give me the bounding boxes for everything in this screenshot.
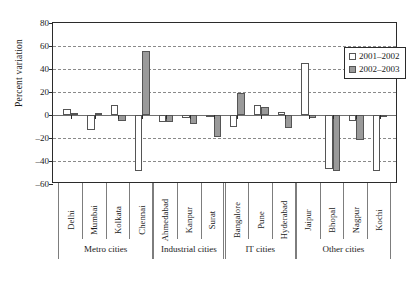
category-cell-kolkata: Kolkata — [106, 183, 130, 239]
category-cell-delhi: Delhi — [58, 183, 82, 239]
bar-pune-2001-2002 — [254, 105, 261, 115]
bar-ahmedabad-2001-2002 — [159, 115, 166, 122]
bar-kolkata-2001-2002 — [111, 105, 118, 115]
x-axis-tick-mark — [285, 115, 286, 119]
group-label-other-cities: Other cities — [296, 239, 391, 259]
group-label-metro-cities: Metro cities — [58, 239, 153, 259]
bar-kolkata-2002-2003 — [118, 115, 125, 121]
category-label: Bangalore — [232, 202, 242, 238]
bar-mumbai-2001-2002 — [87, 115, 94, 130]
bar-mumbai-2002-2003 — [95, 113, 102, 115]
category-cell-bangalore: Bangalore — [225, 183, 249, 239]
bar-chennai-2002-2003 — [142, 51, 149, 115]
category-label: Hyderabad — [279, 201, 289, 240]
category-label: Nagpur — [351, 207, 361, 233]
bar-bangalore-2001-2002 — [230, 115, 237, 127]
category-label: Mumbai — [89, 205, 99, 235]
x-axis-tick-mark — [118, 115, 119, 119]
x-axis-tick-mark — [237, 115, 238, 119]
category-cell-nagpur: Nagpur — [343, 183, 367, 239]
category-label: Kanpur — [184, 207, 194, 233]
legend-swatch-icon-2001-2002 — [349, 53, 356, 60]
category-label: Ahmedabad — [161, 199, 171, 241]
x-axis-tick-mark — [190, 115, 191, 119]
category-cell-jaipur: Jaipur — [296, 183, 320, 239]
bar-surat-2001-2002 — [206, 115, 213, 117]
gridline — [53, 92, 396, 93]
category-label: Bhopal — [327, 207, 337, 232]
gridline — [53, 161, 396, 162]
bar-delhi-2002-2003 — [71, 113, 78, 115]
x-axis-tick-mark — [166, 115, 167, 119]
plot-area: 806040200–20–40–60 2001–2002 2002–2003 — [52, 22, 397, 183]
category-label: Delhi — [65, 210, 75, 230]
category-cell-bhopal: Bhopal — [320, 183, 344, 239]
bar-chennai-2001-2002 — [135, 115, 142, 171]
bar-kochi-2002-2003 — [380, 115, 387, 117]
bar-jaipur-2001-2002 — [301, 63, 308, 115]
y-axis-tick-mark — [49, 23, 53, 24]
y-axis-tick-mark — [49, 161, 53, 162]
category-cell-kochi: Kochi — [367, 183, 391, 239]
x-axis-tick-mark — [356, 115, 357, 119]
bar-pune-2002-2003 — [261, 107, 268, 115]
group-label-industrial-cities: Industrial cities — [153, 239, 224, 259]
category-label: Surat — [208, 211, 218, 230]
category-label: Kochi — [374, 209, 384, 231]
bar-kochi-2001-2002 — [373, 115, 380, 171]
zero-line — [53, 115, 396, 116]
bar-surat-2002-2003 — [214, 115, 221, 137]
bar-jaipur-2002-2003 — [309, 115, 316, 118]
legend-swatch-icon-2002-2003 — [349, 66, 356, 73]
x-axis-tick-mark — [309, 115, 310, 119]
y-axis-tick-mark — [49, 92, 53, 93]
category-cell-ahmedabad: Ahmedabad — [153, 183, 177, 239]
category-cell-kanpur: Kanpur — [177, 183, 201, 239]
bar-kanpur-2001-2002 — [182, 115, 189, 118]
bar-kanpur-2002-2003 — [190, 115, 197, 124]
group-label-it-cities: IT cities — [225, 239, 296, 259]
x-axis-tick-mark — [333, 115, 334, 119]
x-axis-tick-mark — [214, 115, 215, 119]
legend-entry-1: 2002–2003 — [349, 64, 400, 75]
bar-nagpur-2002-2003 — [356, 115, 363, 140]
x-axis-tick-mark — [380, 115, 381, 119]
bar-delhi-2001-2002 — [63, 109, 70, 115]
x-axis-tick-mark — [95, 115, 96, 119]
bar-hyderabad-2002-2003 — [285, 115, 292, 128]
y-axis-tick-mark — [49, 69, 53, 70]
category-cell-surat: Surat — [201, 183, 225, 239]
x-axis-tick-mark — [142, 115, 143, 119]
category-label-table: DelhiMumbaiKolkataChennaiMetro citiesAhm… — [52, 183, 397, 271]
category-cell-hyderabad: Hyderabad — [272, 183, 296, 239]
category-cell-mumbai: Mumbai — [82, 183, 106, 239]
bar-bangalore-2002-2003 — [237, 93, 244, 115]
y-axis-tick-mark — [49, 115, 53, 116]
category-cell-chennai: Chennai — [129, 183, 153, 239]
bar-hyderabad-2001-2002 — [278, 112, 285, 115]
y-axis-tick-mark — [49, 138, 53, 139]
category-label: Pune — [256, 211, 266, 229]
legend-label-2001-2002: 2001–2002 — [359, 51, 400, 62]
category-cell-pune: Pune — [248, 183, 272, 239]
x-axis-tick-mark — [261, 115, 262, 119]
legend: 2001–2002 2002–2003 — [344, 47, 406, 79]
gridline — [53, 138, 396, 139]
category-label: Kolkata — [113, 206, 123, 234]
y-axis-title: Percent variation — [14, 18, 24, 128]
bar-bhopal-2002-2003 — [333, 115, 340, 171]
chart-figure: Percent variation 806040200–20–40–60 200… — [0, 0, 417, 300]
category-label: Jaipur — [303, 209, 313, 231]
y-axis-tick-mark — [49, 46, 53, 47]
category-label: Chennai — [136, 205, 146, 234]
bar-ahmedabad-2002-2003 — [166, 115, 173, 122]
legend-label-2002-2003: 2002–2003 — [359, 64, 400, 75]
x-axis-tick-mark — [71, 115, 72, 119]
bar-bhopal-2001-2002 — [325, 115, 332, 169]
bar-nagpur-2001-2002 — [349, 115, 356, 121]
legend-entry-0: 2001–2002 — [349, 51, 400, 62]
